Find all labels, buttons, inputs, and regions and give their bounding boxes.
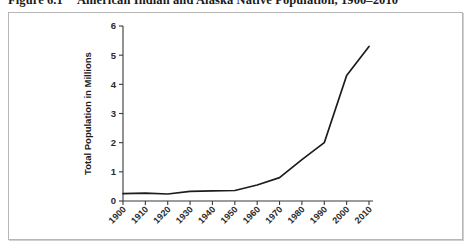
x-tick-label: 1970 <box>263 204 284 225</box>
x-tick-label: 1980 <box>286 204 307 225</box>
y-tick-label: 1 <box>111 166 117 177</box>
x-tick-label: 1900 <box>107 204 128 225</box>
y-tick-label: 6 <box>111 20 116 31</box>
y-axis-title: Total Population in Millions <box>82 52 93 175</box>
y-axis: 0123456 <box>111 20 123 206</box>
x-tick-label: 1950 <box>218 204 239 225</box>
x-tick-label: 2000 <box>330 204 351 225</box>
figure-frame: 0123456 19001910192019301940195019601970… <box>8 12 463 240</box>
x-tick-label: 1920 <box>151 204 172 225</box>
y-tick-label: 4 <box>111 79 117 90</box>
x-tick-label: 1960 <box>241 204 262 225</box>
x-tick-label: 2010 <box>353 204 374 225</box>
y-axis-title-text: Total Population in Millions <box>82 52 93 175</box>
y-tick-label: 2 <box>111 137 116 148</box>
x-tick-label: 1930 <box>174 204 195 225</box>
line-chart: 0123456 19001910192019301940195019601970… <box>9 13 464 241</box>
chart-canvas: 0123456 19001910192019301940195019601970… <box>9 13 464 241</box>
figure-number: Figure 6.1 <box>8 0 63 7</box>
y-tick-label: 3 <box>111 108 116 119</box>
data-series <box>123 46 369 194</box>
figure-caption: Figure 6.1American Indian and Alaska Nat… <box>8 0 468 9</box>
y-tick-label: 5 <box>111 50 117 61</box>
population-line <box>123 46 369 194</box>
x-tick-label: 1910 <box>129 204 150 225</box>
figure-title: American Indian and Alaska Native Popula… <box>77 0 398 7</box>
x-tick-label: 1940 <box>196 204 217 225</box>
x-axis: 1900191019201930194019501960197019801990… <box>107 201 374 226</box>
y-tick-label: 0 <box>111 195 116 206</box>
x-tick-label: 1990 <box>308 204 329 225</box>
